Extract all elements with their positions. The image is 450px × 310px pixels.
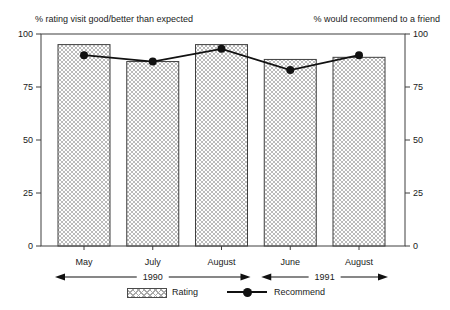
rating-bar-3 xyxy=(264,59,316,246)
month-label-4: August xyxy=(345,257,374,267)
year-label-1991: 1991 xyxy=(315,272,335,282)
recommend-point-1 xyxy=(149,58,157,66)
rating-bar-0 xyxy=(58,45,110,246)
y-tick-label-left: 75 xyxy=(23,82,33,92)
recommend-point-2 xyxy=(218,45,226,53)
month-label-1: July xyxy=(145,257,162,267)
y-tick-label-right: 0 xyxy=(413,241,418,251)
year-label-1990: 1990 xyxy=(143,272,163,282)
recommend-point-0 xyxy=(80,51,88,59)
rating-bar-4 xyxy=(333,57,385,246)
year-arrow-1991: 1991 xyxy=(261,272,388,282)
rating-bar-2 xyxy=(196,45,248,246)
chart-svg: 00252550507575100100MayJulyAugustJuneAug… xyxy=(0,0,450,310)
y-tick-label-right: 50 xyxy=(413,135,423,145)
y-tick-label-right: 75 xyxy=(413,82,423,92)
legend-rating-swatch-icon xyxy=(127,288,167,298)
legend-recommend-dot-icon xyxy=(243,288,252,297)
recommend-point-3 xyxy=(286,66,294,74)
y-tick-label-right: 25 xyxy=(413,188,423,198)
legend-rating-label: Rating xyxy=(172,287,198,298)
rating-bar-1 xyxy=(127,62,179,246)
year-arrow-1990: 1990 xyxy=(55,272,251,282)
y-tick-label-left: 100 xyxy=(18,29,33,39)
legend-recommend-label: Recommend xyxy=(274,287,325,298)
month-label-2: August xyxy=(207,257,236,267)
y-tick-label-left: 50 xyxy=(23,135,33,145)
recommend-point-4 xyxy=(355,51,363,59)
y-tick-label-right: 100 xyxy=(413,29,428,39)
survey-ratings-figure: % rating visit good/better than expected… xyxy=(0,0,450,310)
y-tick-label-left: 0 xyxy=(28,241,33,251)
y-tick-label-left: 25 xyxy=(23,188,33,198)
legend: Rating Recommend xyxy=(0,285,450,301)
month-label-0: May xyxy=(75,257,93,267)
month-label-3: June xyxy=(280,257,300,267)
